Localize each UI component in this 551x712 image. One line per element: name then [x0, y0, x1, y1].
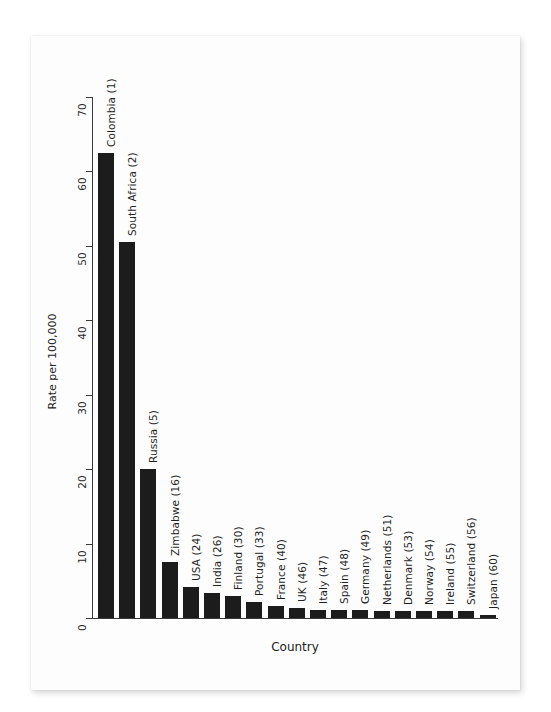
- y-tick-label-wrap: 30: [60, 395, 82, 396]
- bar-group: Portugal (33): [246, 602, 262, 618]
- y-tick-mark: [86, 246, 92, 247]
- y-tick-mark: [86, 320, 92, 321]
- y-tick-mark: [86, 469, 92, 470]
- bar-group: South Africa (2): [119, 242, 135, 618]
- y-axis-line: [92, 97, 93, 619]
- bar-group: France (40): [268, 606, 284, 618]
- y-tick-label: 30: [76, 401, 88, 415]
- y-tick-label: 10: [76, 550, 88, 564]
- bar-category-label: Germany (49): [359, 529, 371, 603]
- bar-category-label: Zimbabwe (16): [169, 475, 181, 556]
- y-tick-label: 40: [76, 326, 88, 340]
- bar[interactable]: [416, 611, 432, 618]
- bar-group: Italy (47): [310, 610, 326, 618]
- y-axis-title: Rate per 100,000: [46, 292, 59, 432]
- bar[interactable]: [225, 596, 241, 618]
- bar[interactable]: [310, 610, 326, 618]
- bar-group: Zimbabwe (16): [162, 562, 178, 618]
- y-tick-mark: [86, 171, 92, 172]
- y-tick-label-wrap: 20: [60, 469, 82, 470]
- bar-category-label: Japan (60): [487, 554, 499, 609]
- bar-group: Netherlands (51): [374, 611, 390, 618]
- bar-group: Colombia (1): [98, 153, 114, 618]
- bar-category-label: Russia (5): [147, 410, 159, 463]
- bar[interactable]: [183, 587, 199, 618]
- bar[interactable]: [204, 593, 220, 618]
- bar-category-label: Spain (48): [338, 549, 350, 604]
- bar[interactable]: [162, 562, 178, 618]
- x-axis-line: [92, 618, 498, 619]
- y-tick-label-wrap: 60: [60, 171, 82, 172]
- y-tick-label: 0: [76, 624, 88, 631]
- bar-group: Ireland (55): [437, 611, 453, 618]
- bar-group: Switzerland (56): [458, 611, 474, 618]
- bar[interactable]: [437, 611, 453, 618]
- bar-category-label: India (26): [211, 535, 223, 587]
- bar-category-label: South Africa (2): [126, 153, 138, 237]
- bar-category-label: Finland (30): [232, 527, 244, 591]
- y-tick-mark: [86, 395, 92, 396]
- bar[interactable]: [352, 610, 368, 618]
- bar-group: Germany (49): [352, 610, 368, 618]
- y-tick-label: 60: [76, 177, 88, 191]
- bar[interactable]: [98, 153, 114, 618]
- bar[interactable]: [246, 602, 262, 618]
- bar-category-label: Colombia (1): [105, 78, 117, 147]
- y-tick-label-wrap: 70: [60, 97, 82, 98]
- bar-category-label: Norway (54): [423, 539, 435, 605]
- bar[interactable]: [395, 611, 411, 618]
- bar-category-label: UK (46): [296, 562, 308, 602]
- bar-group: Norway (54): [416, 611, 432, 618]
- bar[interactable]: [289, 608, 305, 618]
- bar[interactable]: [119, 242, 135, 618]
- y-tick-mark: [86, 618, 92, 619]
- bar-category-label: Denmark (53): [402, 530, 414, 604]
- bar[interactable]: [374, 611, 390, 618]
- bar[interactable]: [331, 610, 347, 618]
- y-tick-label-wrap: 10: [60, 544, 82, 545]
- y-tick-label-wrap: 40: [60, 320, 82, 321]
- y-tick-label-wrap: 50: [60, 246, 82, 247]
- bar-category-label: USA (24): [190, 533, 202, 580]
- bar[interactable]: [480, 615, 496, 618]
- bar-group: Russia (5): [140, 469, 156, 618]
- bar-group: UK (46): [289, 608, 305, 618]
- bar-group: USA (24): [183, 587, 199, 618]
- y-tick-mark: [86, 97, 92, 98]
- bar-category-label: Netherlands (51): [381, 514, 393, 605]
- y-tick-label-wrap: 0: [60, 618, 82, 619]
- bar[interactable]: [268, 606, 284, 618]
- y-tick-label: 20: [76, 475, 88, 489]
- bar-category-label: Switzerland (56): [465, 518, 477, 606]
- bar[interactable]: [458, 611, 474, 618]
- bar-category-label: France (40): [275, 539, 287, 600]
- y-tick-mark: [86, 544, 92, 545]
- bar-group: Japan (60): [480, 615, 496, 618]
- bar-category-label: Portugal (33): [253, 526, 265, 596]
- bar-category-label: Italy (47): [317, 555, 329, 604]
- x-axis-title: Country: [92, 640, 498, 654]
- bar-group: Denmark (53): [395, 611, 411, 618]
- y-tick-label: 70: [76, 103, 88, 117]
- bar[interactable]: [140, 469, 156, 618]
- bar-category-label: Ireland (55): [444, 542, 456, 604]
- screenshot-canvas: 010203040506070 Rate per 100,000 Country…: [0, 0, 551, 712]
- bar-group: Finland (30): [225, 596, 241, 618]
- bar-group: India (26): [204, 593, 220, 618]
- bar-chart: 010203040506070 Rate per 100,000 Country…: [0, 0, 551, 712]
- bar-group: Spain (48): [331, 610, 347, 618]
- y-tick-label: 50: [76, 252, 88, 266]
